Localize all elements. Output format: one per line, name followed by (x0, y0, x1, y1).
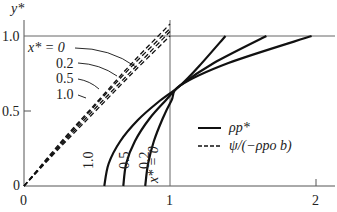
leader-05 (78, 79, 99, 89)
dashed-label-x0: x* = 0 (27, 40, 65, 55)
legend-solid-label: ρp* (228, 120, 250, 135)
dashed-label-10: 1.0 (56, 87, 74, 102)
solid-series (104, 36, 311, 186)
x-tick-label-0: 0 (20, 193, 27, 208)
x-tick-label-2: 2 (312, 193, 319, 208)
y-tick-label-1: 1.0 (2, 29, 20, 44)
leader-x0 (75, 48, 136, 67)
solid-label-10: 1.0 (81, 152, 96, 170)
y-tick-label-0: 0 (13, 178, 20, 193)
x-tick-label-1: 1 (166, 193, 173, 208)
chart: y* 1.0 0.5 0 0 1 2 x* = 0 0.2 0.5 1.0 1.… (0, 0, 337, 212)
solid-label-05: 0.5 (117, 152, 132, 170)
y-tick-label-05: 0.5 (2, 104, 20, 119)
legend-dashed-label: ψ/(−ρpo b) (229, 138, 292, 154)
solid-label-x0: x* = 0 (146, 146, 161, 184)
dashed-label-02: 0.2 (56, 56, 74, 71)
dashed-label-05: 0.5 (56, 71, 74, 86)
leader-10 (78, 95, 86, 98)
y-axis-label: y* (9, 1, 24, 16)
leader-02 (78, 63, 117, 76)
